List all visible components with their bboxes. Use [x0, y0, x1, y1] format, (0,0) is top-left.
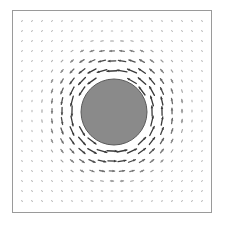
vector-arrow [32, 191, 33, 192]
vector-arrow [172, 51, 173, 52]
vector-arrow [141, 181, 143, 182]
vector-arrow [172, 181, 173, 182]
vector-arrow [71, 201, 72, 202]
arrowhead-icon [161, 107, 164, 109]
vector-arrow [62, 181, 63, 182]
vector-arrow [61, 51, 62, 52]
vector-arrow [61, 191, 62, 192]
vector-arrow [161, 31, 162, 32]
vector-arrow [151, 191, 152, 192]
vector-arrow [22, 41, 23, 42]
vector-arrow [22, 170, 23, 171]
vector-arrow [182, 41, 183, 42]
vector-arrow [71, 31, 72, 32]
vector-arrow [161, 170, 163, 171]
vector-arrow [192, 41, 193, 42]
vector-arrow [42, 31, 43, 32]
vector-arrow [81, 181, 83, 182]
vector-arrow [182, 181, 183, 182]
vector-arrow [202, 160, 203, 161]
vector-arrow [192, 201, 193, 202]
vector-arrow [61, 201, 62, 202]
arrowhead-icon [112, 170, 114, 173]
vector-arrow [52, 31, 53, 32]
vector-arrow [52, 201, 53, 202]
vector-arrow [52, 51, 53, 52]
vector-arrow [151, 41, 152, 42]
vector-arrow [192, 51, 193, 52]
vector-arrow [172, 31, 173, 32]
vector-arrow [202, 60, 203, 61]
vector-arrow [202, 201, 203, 202]
vector-arrow [42, 181, 43, 182]
arrowhead-icon [111, 180, 113, 183]
vector-arrow [172, 41, 173, 42]
vector-arrow [71, 50, 73, 51]
vector-arrow [182, 61, 183, 62]
vector-arrow [22, 160, 23, 161]
arrowhead-icon [107, 70, 109, 73]
vector-arrow [32, 31, 33, 32]
vector-arrow [101, 181, 104, 182]
vector-arrow [42, 21, 43, 22]
vector-arrow [192, 150, 193, 151]
vector-arrow [71, 181, 72, 182]
vector-arrow [131, 41, 133, 42]
vector-arrow [171, 201, 172, 202]
vector-arrow [42, 90, 43, 92]
vector-arrow [141, 41, 143, 42]
vector-arrow [71, 41, 72, 42]
vector-arrow [62, 41, 63, 42]
vector-arrow [202, 70, 203, 71]
vector-arrow [61, 60, 63, 62]
vector-arrow [52, 60, 53, 61]
vector-arrow [22, 60, 23, 61]
vector-arrow [171, 21, 172, 22]
vector-arrow [182, 21, 183, 22]
vector-arrow [182, 140, 183, 142]
vector-arrow [42, 191, 43, 192]
vector-arrow [192, 21, 193, 22]
vector-arrow [52, 21, 53, 22]
vector-arrow [182, 31, 183, 32]
vector-arrow [42, 41, 43, 42]
vector-arrow [202, 181, 203, 182]
vector-arrow [131, 181, 134, 182]
vector-arrow [161, 50, 162, 51]
vector-arrow [151, 181, 152, 182]
vector-arrow [32, 41, 33, 42]
vector-arrow [192, 31, 193, 32]
vector-arrow [192, 181, 193, 182]
vector-arrow [71, 191, 72, 192]
vector-arrow [22, 31, 23, 32]
vector-arrow [22, 50, 23, 51]
vector-arrow [182, 130, 183, 133]
vector-arrow [42, 161, 43, 162]
vector-arrow [32, 70, 33, 71]
vector-arrow [202, 31, 203, 32]
vector-arrow [71, 21, 72, 22]
vector-arrow [51, 160, 52, 161]
vector-arrow [182, 70, 183, 71]
vector-arrow [42, 61, 43, 62]
vector-arrow [182, 90, 183, 93]
vector-arrow [81, 41, 83, 42]
vector-arrow [32, 160, 33, 161]
vector-arrow [42, 201, 43, 202]
vector-arrow [182, 51, 183, 52]
vector-arrow [51, 150, 52, 152]
vector-arrow [151, 31, 152, 32]
vector-arrow [192, 160, 193, 161]
vector-arrow [161, 201, 162, 202]
vector-arrow [32, 181, 33, 182]
vector-arrow [42, 140, 43, 142]
vector-arrow [172, 171, 173, 172]
vector-arrow [202, 191, 203, 192]
vector-arrow [22, 21, 23, 22]
arrowhead-icon [114, 160, 116, 163]
vector-field [0, 0, 226, 227]
vector-arrow [172, 191, 173, 192]
vector-arrow [22, 201, 23, 202]
vector-arrow [202, 21, 203, 22]
vector-arrow [42, 51, 43, 52]
